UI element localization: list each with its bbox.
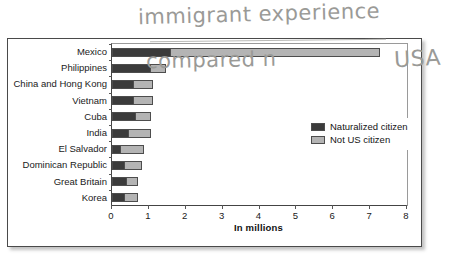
- bar-segment-not-us-citizen: [135, 113, 150, 120]
- y-axis-tick: [109, 60, 112, 61]
- x-axis-title: In millions: [111, 222, 406, 233]
- x-axis-tick-label: 5: [293, 210, 298, 221]
- bar-segment-not-us-citizen: [124, 194, 137, 201]
- bar-segment-naturalized: [113, 178, 126, 185]
- category-label: Cuba: [84, 109, 107, 125]
- bar-segment-naturalized: [113, 97, 133, 104]
- bar-segment-naturalized: [113, 65, 150, 72]
- category-label: Great Britain: [54, 174, 107, 190]
- stacked-bar: [112, 177, 138, 186]
- x-axis-tick: [369, 205, 370, 209]
- chart-row: Great Britain: [112, 174, 407, 190]
- legend-swatch-icon: [311, 123, 325, 131]
- legend-swatch-icon: [311, 136, 325, 144]
- stacked-bar: [112, 112, 151, 121]
- category-label: Mexico: [77, 44, 107, 60]
- chart-container: MexicoPhilippinesChina and Hong KongViet…: [7, 38, 422, 247]
- bar-segment-naturalized: [113, 81, 133, 88]
- category-label: Philippines: [61, 60, 107, 76]
- bar-segment-naturalized: [113, 194, 124, 201]
- bar-segment-not-us-citizen: [124, 162, 141, 169]
- bar-segment-not-us-citizen: [133, 81, 151, 88]
- stacked-bar: [112, 80, 153, 89]
- bar-segment-not-us-citizen: [128, 130, 150, 137]
- bar-segment-naturalized: [113, 162, 124, 169]
- y-axis-tick: [109, 109, 112, 110]
- x-axis-tick-label: 6: [330, 210, 335, 221]
- stacked-bar: [112, 145, 144, 154]
- x-axis-tick-label: 0: [108, 210, 113, 221]
- x-axis-tick-label: 4: [256, 210, 261, 221]
- category-label: Vietnam: [72, 93, 107, 109]
- stacked-bar: [112, 64, 166, 73]
- bar-segment-naturalized: [113, 146, 120, 153]
- stacked-bar: [112, 96, 153, 105]
- bar-segment-not-us-citizen: [133, 97, 151, 104]
- chart-row: China and Hong Kong: [112, 76, 407, 92]
- y-axis-tick: [109, 157, 112, 158]
- stacked-bar: [112, 193, 138, 202]
- x-axis-tick: [111, 205, 112, 209]
- category-label: India: [86, 125, 107, 141]
- bar-segment-naturalized: [113, 130, 128, 137]
- x-axis-tick: [148, 205, 149, 209]
- y-axis-tick: [109, 76, 112, 77]
- legend-item: Naturalized citizen: [311, 121, 408, 132]
- chart-legend: Naturalized citizenNot US citizen: [308, 118, 412, 150]
- x-axis-tick: [332, 205, 333, 209]
- y-axis-tick: [109, 93, 112, 94]
- stacked-bar: [112, 48, 380, 57]
- chart-row: Vietnam: [112, 93, 407, 109]
- category-label: Korea: [82, 190, 107, 206]
- x-axis-tick: [406, 205, 407, 209]
- bar-segment-naturalized: [113, 113, 135, 120]
- chart-row: Korea: [112, 190, 407, 206]
- bar-segment-not-us-citizen: [150, 65, 165, 72]
- legend-label: Naturalized citizen: [330, 121, 408, 132]
- y-axis-tick: [109, 44, 112, 45]
- x-axis-tick-label: 2: [182, 210, 187, 221]
- chart-row: Mexico: [112, 44, 407, 60]
- x-axis-tick-label: 3: [219, 210, 224, 221]
- stacked-bar: [112, 129, 151, 138]
- y-axis-tick: [109, 141, 112, 142]
- bar-segment-not-us-citizen: [126, 178, 137, 185]
- legend-item: Not US citizen: [311, 134, 408, 145]
- bar-segment-not-us-citizen: [120, 146, 142, 153]
- category-label: El Salvador: [58, 141, 107, 157]
- bar-segment-naturalized: [113, 49, 170, 56]
- bar-segment-not-us-citizen: [170, 49, 378, 56]
- y-axis-tick: [109, 125, 112, 126]
- y-axis-tick: [109, 174, 112, 175]
- x-axis-tick: [295, 205, 296, 209]
- y-axis-tick: [109, 190, 112, 191]
- handwritten-note-line-1: immigrant experience: [138, 0, 381, 29]
- x-axis-tick-label: 7: [366, 210, 371, 221]
- x-axis-tick-label: 8: [403, 210, 408, 221]
- stacked-bar: [112, 161, 142, 170]
- x-axis-tick: [222, 205, 223, 209]
- chart-row: Philippines: [112, 60, 407, 76]
- chart-row: Dominican Republic: [112, 157, 407, 173]
- legend-label: Not US citizen: [330, 134, 390, 145]
- x-axis-line: 012345678: [111, 205, 406, 206]
- x-axis-tick-label: 1: [145, 210, 150, 221]
- x-axis-tick: [259, 205, 260, 209]
- category-label: Dominican Republic: [23, 157, 107, 173]
- category-label: China and Hong Kong: [14, 76, 108, 92]
- x-axis-tick: [185, 205, 186, 209]
